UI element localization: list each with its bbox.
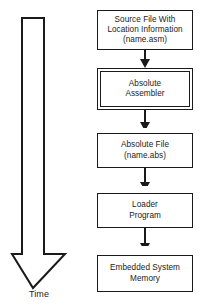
connector-loader-program-to-embedded-system-memory	[96, 228, 194, 246]
node-absolute-file[interactable]: Absolute File (name.abs)	[97, 133, 193, 168]
node-absolute-assembler-inner-frame: Absolute Assembler	[100, 71, 190, 107]
connector-absolute-assembler-to-absolute-file	[96, 110, 194, 128]
assembler-flow-diagram: Time Source File With Location Informati…	[0, 0, 207, 308]
node-embedded-system-memory-label: Embedded System Memory	[108, 263, 182, 283]
connector-absolute-file-to-loader-program	[96, 168, 194, 186]
node-absolute-assembler-label: Absolute Assembler	[123, 79, 166, 99]
time-axis-label: Time	[12, 289, 66, 300]
node-source-file[interactable]: Source File With Location Information (n…	[97, 10, 193, 50]
node-absolute-file-label: Absolute File (name.abs)	[119, 140, 171, 160]
node-loader-program-label: Loader Program	[127, 200, 163, 220]
connector-source-file-to-absolute-assembler	[96, 50, 194, 68]
node-loader-program[interactable]: Loader Program	[97, 193, 193, 228]
node-embedded-system-memory[interactable]: Embedded System Memory	[97, 255, 193, 292]
node-absolute-assembler[interactable]: Absolute Assembler	[97, 68, 193, 110]
flow-column: Source File With Location Information (n…	[96, 0, 196, 308]
node-source-file-label: Source File With Location Information (n…	[105, 15, 184, 46]
time-arrow-outline-icon	[10, 16, 68, 290]
